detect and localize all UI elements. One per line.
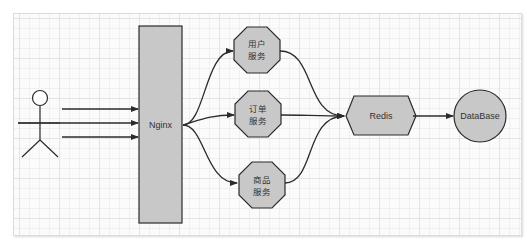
nginx-to-services-edges [183,51,237,183]
svg-text:用户: 用户 [248,39,266,49]
redis-node[interactable]: Redis [346,96,416,135]
service-node-product[interactable]: 商品 服务 [239,162,285,208]
svg-text:商品: 商品 [253,175,271,185]
user-actor-icon[interactable] [18,91,60,158]
database-node[interactable]: DataBase [454,90,506,142]
request-arrows [18,109,138,137]
service-node-order[interactable]: 订单 服务 [235,91,281,137]
svg-text:订单: 订单 [249,104,267,114]
svg-text:服务: 服务 [248,51,266,61]
svg-text:服务: 服务 [249,116,267,126]
nginx-node[interactable]: Nginx [139,26,182,223]
services-to-redis-edges [280,51,344,183]
svg-text:服务: 服务 [253,187,271,197]
service-node-user[interactable]: 用户 服务 [234,27,280,73]
nginx-label: Nginx [149,120,173,130]
redis-label: Redis [369,111,393,121]
architecture-diagram: Nginx 用户 服务 订单 服务 商品 服务 Redis DataBase [0,0,527,247]
database-label: DataBase [460,111,500,121]
